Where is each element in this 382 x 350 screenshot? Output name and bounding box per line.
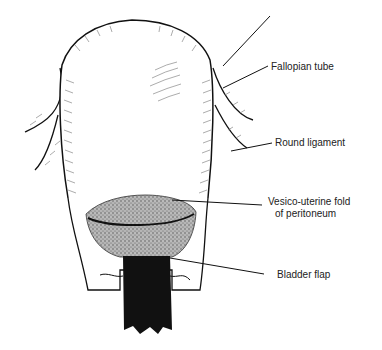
label-bladder-flap: Bladder flap	[277, 269, 330, 281]
vesico-uterine-fold	[86, 195, 196, 257]
uterus-outline	[60, 20, 213, 198]
label-fallopian-tube: Fallopian tube	[271, 61, 334, 73]
bladder-flap-shape	[123, 256, 172, 334]
label-round-ligament: Round ligament	[275, 137, 345, 149]
right-adnexa	[213, 68, 253, 148]
label-vesico-uterine-fold: Vesico-uterine fold	[268, 196, 350, 208]
leader-lines	[223, 16, 270, 66]
left-adnexa	[25, 68, 62, 170]
label-of-peritoneum: of peritoneum	[275, 208, 336, 220]
uterus-illustration	[0, 0, 382, 350]
